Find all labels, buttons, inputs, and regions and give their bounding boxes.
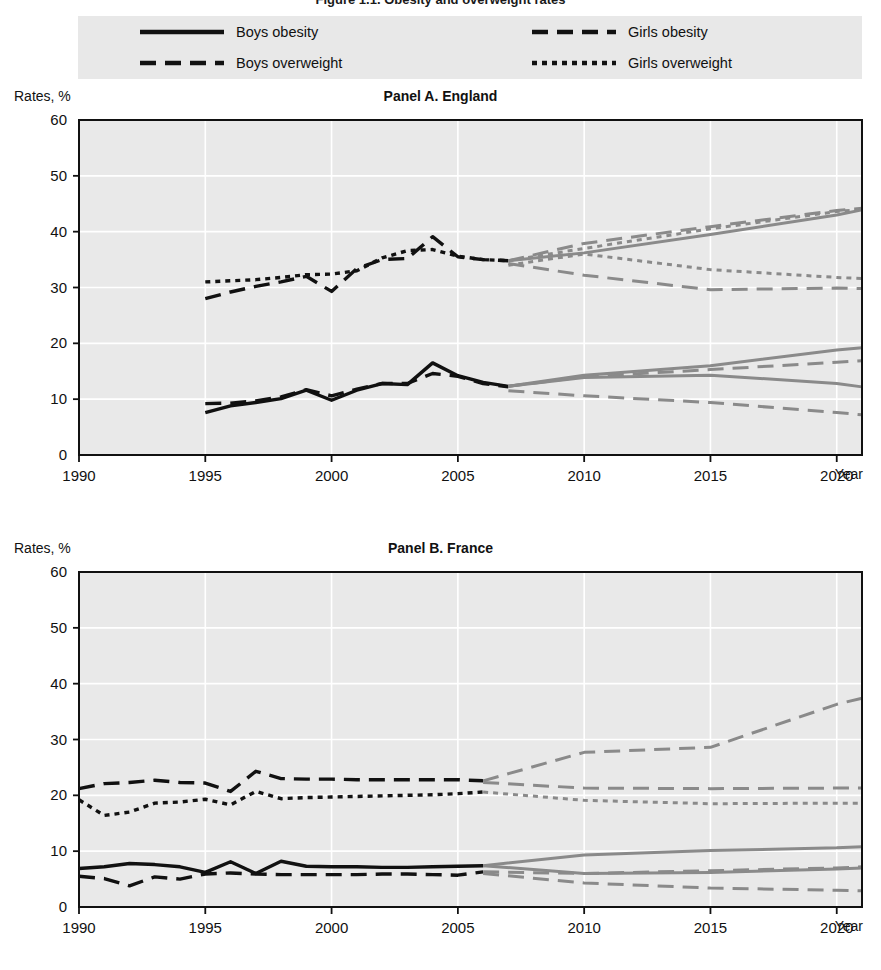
x-tick-label: 2000 xyxy=(315,467,348,483)
x-tick-label: 1995 xyxy=(189,919,222,935)
panel-a-england: Rates, % Panel A. England 01020304050601… xyxy=(0,88,881,498)
y-tick-label: 50 xyxy=(50,619,67,636)
legend-item-boys_obesity: Boys obesity xyxy=(78,16,470,48)
y-tick-label: 60 xyxy=(50,111,67,128)
x-tick-label: 2005 xyxy=(441,467,474,483)
y-tick-label: 30 xyxy=(50,279,67,296)
panel-a-x-axis-label: Year xyxy=(835,466,863,482)
y-tick-label: 20 xyxy=(50,334,67,351)
y-tick-label: 60 xyxy=(50,563,67,580)
y-tick-label: 10 xyxy=(50,842,67,859)
legend-item-girls_overweight: Girls overweight xyxy=(470,48,862,80)
y-tick-label: 10 xyxy=(50,390,67,407)
x-tick-label: 1990 xyxy=(62,919,95,935)
figure-title-text: Figure 1.1. Obesity and overweight rates xyxy=(0,0,881,7)
y-tick-label: 0 xyxy=(59,898,67,915)
legend-item-girls_obesity: Girls obesity xyxy=(470,16,862,48)
panel-b-france: Rates, % Panel B. France 010203040506019… xyxy=(0,540,881,970)
legend-label: Girls obesity xyxy=(628,24,708,40)
y-tick-label: 20 xyxy=(50,786,67,803)
long-dash-line-swatch xyxy=(140,56,224,70)
y-tick-label: 40 xyxy=(50,223,67,240)
panel-a-plot: 0102030405060199019952000200520102015202… xyxy=(0,88,881,483)
panel-b-title: Panel B. France xyxy=(0,540,881,556)
x-tick-label: 1990 xyxy=(62,467,95,483)
x-tick-label: 1995 xyxy=(189,467,222,483)
long-dash-line-swatch xyxy=(532,25,616,39)
legend-label: Boys obesity xyxy=(236,24,318,40)
panel-a-title: Panel A. England xyxy=(0,88,881,104)
panel-b-plot: 0102030405060199019952000200520102015202… xyxy=(0,540,881,935)
x-tick-label: 2010 xyxy=(567,919,600,935)
short-dash-line-swatch xyxy=(532,56,616,70)
y-tick-label: 0 xyxy=(59,446,67,463)
figure-title-cropped: Figure 1.1. Obesity and overweight rates xyxy=(0,0,881,14)
x-tick-label: 2015 xyxy=(694,467,727,483)
solid-line-swatch xyxy=(140,25,224,39)
x-tick-label: 2010 xyxy=(567,467,600,483)
y-tick-label: 30 xyxy=(50,731,67,748)
y-tick-label: 50 xyxy=(50,167,67,184)
x-tick-label: 2015 xyxy=(694,919,727,935)
y-tick-label: 40 xyxy=(50,675,67,692)
legend-label: Boys overweight xyxy=(236,55,342,71)
legend-item-boys_overweight: Boys overweight xyxy=(78,48,470,80)
legend-label: Girls overweight xyxy=(628,55,732,71)
x-tick-label: 2005 xyxy=(441,919,474,935)
panel-b-x-axis-label: Year xyxy=(835,918,863,934)
chart-legend: Boys obesityGirls obesityBoys overweight… xyxy=(78,16,862,79)
x-tick-label: 2000 xyxy=(315,919,348,935)
